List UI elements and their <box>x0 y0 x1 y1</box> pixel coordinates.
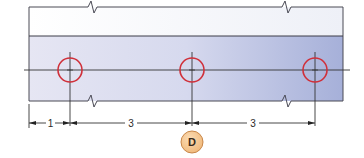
callout-badge: D <box>181 131 203 153</box>
upper-band <box>29 7 343 36</box>
dim-edge-to-hole1: 1 <box>29 118 70 129</box>
dim-hole2-to-hole3: 3 <box>192 118 315 129</box>
dim-hole1-to-hole2: 3 <box>70 118 192 129</box>
dim-label: 1 <box>48 118 54 129</box>
drawing-canvas: 1 3 3 D <box>0 0 364 158</box>
dim-label: 3 <box>128 118 134 129</box>
callout-label: D <box>188 136 196 148</box>
dim-label: 3 <box>250 118 256 129</box>
plate-body <box>29 36 343 101</box>
